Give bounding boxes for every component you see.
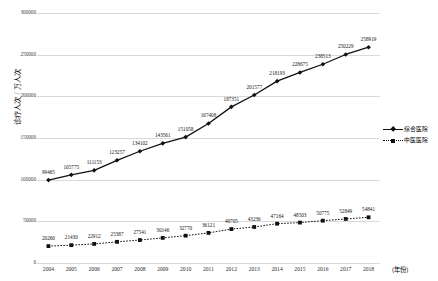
data-point-marker bbox=[161, 236, 165, 240]
data-point-marker bbox=[138, 149, 143, 154]
data-point-label: 105775 bbox=[51, 165, 91, 170]
data-point-marker bbox=[47, 244, 51, 248]
legend-label-tcm-hospital: 中医医院 bbox=[404, 135, 428, 146]
data-point-marker bbox=[160, 141, 165, 146]
data-point-label: 218193 bbox=[257, 71, 297, 76]
data-point-marker bbox=[298, 221, 302, 225]
data-point-marker bbox=[46, 178, 51, 183]
data-point-marker bbox=[321, 219, 325, 223]
data-point-marker bbox=[69, 243, 73, 247]
data-point-marker bbox=[229, 227, 233, 231]
data-point-label: 99465 bbox=[28, 170, 68, 175]
data-point-label: 167408 bbox=[189, 113, 229, 118]
data-point-marker bbox=[321, 62, 326, 67]
legend-item-tcm-hospital[interactable]: 中医医院 bbox=[383, 135, 428, 146]
data-point-marker bbox=[115, 158, 120, 163]
data-point-label: 187351 bbox=[211, 97, 251, 102]
data-point-label: 111153 bbox=[74, 160, 114, 165]
data-point-label: 258919 bbox=[349, 37, 389, 42]
legend-marker-square-icon bbox=[383, 137, 403, 144]
data-point-label: 123257 bbox=[97, 150, 137, 155]
chart-container: 诊疗人次 / 万人次 30000025000020000015000010000… bbox=[0, 0, 438, 281]
series-markers-tcm-hospital bbox=[47, 215, 371, 248]
data-point-label: 238513 bbox=[303, 54, 343, 59]
data-point-label: 134102 bbox=[120, 141, 160, 146]
data-point-marker bbox=[207, 231, 211, 235]
data-point-label: 250229 bbox=[326, 44, 366, 49]
data-point-marker bbox=[298, 70, 303, 75]
data-point-label: 201577 bbox=[234, 85, 274, 90]
legend-item-general-hospital[interactable]: 综合医院 bbox=[383, 124, 428, 135]
legend-label-general-hospital: 综合医院 bbox=[404, 124, 428, 135]
data-point-marker bbox=[344, 217, 348, 221]
data-point-marker bbox=[367, 215, 371, 219]
data-point-marker bbox=[366, 45, 371, 50]
data-point-marker bbox=[275, 222, 279, 226]
data-point-marker bbox=[92, 168, 97, 173]
data-point-marker bbox=[252, 225, 256, 229]
data-point-marker bbox=[138, 238, 142, 242]
data-point-marker bbox=[184, 234, 188, 238]
data-point-marker bbox=[115, 240, 119, 244]
legend-marker-diamond-icon bbox=[383, 126, 403, 133]
data-point-marker bbox=[92, 242, 96, 246]
data-point-label: 151058 bbox=[166, 127, 206, 132]
chart-legend: 综合医院 中医医院 bbox=[383, 124, 428, 146]
data-point-label: 228675 bbox=[280, 62, 320, 67]
data-point-label: 54841 bbox=[349, 207, 389, 212]
data-point-marker bbox=[343, 52, 348, 57]
data-point-label: 143561 bbox=[143, 133, 183, 138]
data-point-marker bbox=[69, 173, 74, 178]
